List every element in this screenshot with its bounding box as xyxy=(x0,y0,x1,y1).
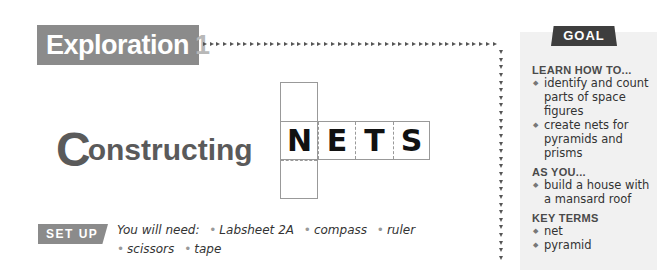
net-letter: S xyxy=(394,122,429,159)
setup-intro: You will need: xyxy=(117,223,199,237)
goal-list: build a house with a mansard roof xyxy=(532,178,651,206)
nets-diagram: N E T S xyxy=(280,82,430,200)
title-rest: onstructing xyxy=(88,133,253,166)
net-letter: N xyxy=(281,122,319,159)
goal-section-heading: AS YOU... xyxy=(532,166,651,178)
goal-panel: LEARN HOW TO... identify and count parts… xyxy=(520,32,657,270)
material-item: tape xyxy=(194,242,221,256)
goal-item: build a house with a mansard roof xyxy=(532,178,651,206)
goal-list: identify and count parts of space figure… xyxy=(532,76,651,160)
goal-item: identify and count parts of space figure… xyxy=(532,76,651,118)
goal-section-heading: KEY TERMS xyxy=(532,212,651,224)
goal-item: pyramid xyxy=(532,238,651,252)
material-item: ruler xyxy=(387,223,415,237)
arrow-path-vertical xyxy=(497,50,505,260)
material-item: compass xyxy=(314,223,367,237)
net-horizontal-strip: N E T S xyxy=(280,121,430,160)
goal-item: create nets for pyramids and prisms xyxy=(532,118,651,160)
goal-list: net pyramid xyxy=(532,224,651,252)
page-title: Constructing xyxy=(56,122,253,177)
goal-section-heading: LEARN HOW TO... xyxy=(532,64,651,76)
net-letter: E xyxy=(319,122,356,159)
title-initial: C xyxy=(56,123,88,176)
goal-item: net xyxy=(532,224,651,238)
exploration-label: Exploration xyxy=(46,30,189,60)
arrow-path-horizontal xyxy=(203,40,497,48)
goal-tab: GOAL xyxy=(551,26,617,46)
setup-badge: SET UP xyxy=(38,224,108,244)
setup-materials: You will need: •Labsheet 2A •compass •ru… xyxy=(117,221,417,259)
net-letter: T xyxy=(356,122,394,159)
exploration-banner: Exploration1 xyxy=(37,25,199,65)
material-item: Labsheet 2A xyxy=(219,223,294,237)
material-item: scissors xyxy=(127,242,174,256)
